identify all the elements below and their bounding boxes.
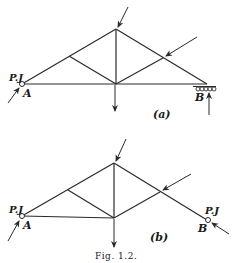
truss-b: P.J A P.J B (b) <box>8 139 229 247</box>
truss-figure: P.J A B (a) P.J A P.J B (b) Fig. 1.2. <box>0 0 232 263</box>
node-label-b: B <box>197 222 207 235</box>
top-chord-right <box>114 163 207 220</box>
node-label-a: A <box>22 87 32 100</box>
truss-a: P.J A B (a) <box>8 7 216 121</box>
sublabel-b: (b) <box>150 231 168 244</box>
reaction-arrow-b <box>212 223 229 234</box>
load-arrow-right-panel <box>166 37 197 56</box>
web-right <box>114 192 160 218</box>
pj-label-a: P.J <box>8 204 24 215</box>
reaction-arrow-a <box>8 221 19 241</box>
web-left <box>69 56 116 84</box>
node-label-b: B <box>194 91 204 104</box>
top-chord-left <box>22 163 114 216</box>
load-arrow-apex <box>116 139 126 161</box>
pj-label-b: P.J <box>204 205 220 216</box>
load-arrow-right-panel <box>163 174 191 190</box>
figure-caption: Fig. 1.2. <box>95 251 137 261</box>
load-arrow-apex <box>118 7 128 27</box>
web-left <box>68 190 114 218</box>
pj-label-a: P.J <box>8 72 24 83</box>
bottom-chord <box>22 216 114 218</box>
reaction-arrow-a <box>8 88 19 103</box>
web-right <box>116 58 163 84</box>
top-chord-right <box>116 29 207 84</box>
sublabel-a: (a) <box>153 108 171 121</box>
node-label-a: A <box>22 219 32 232</box>
